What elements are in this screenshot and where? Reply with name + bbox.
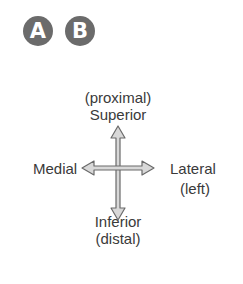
direction-cross-arrows-icon <box>0 0 243 284</box>
